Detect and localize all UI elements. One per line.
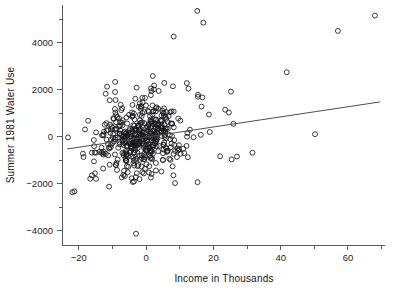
y-axis-title: Summer 1981 Water Use [5,66,16,183]
x-tick-label: 0 [143,252,148,263]
y-tick-label: 2000 [32,84,53,95]
y-tick-label: 4000 [32,37,53,48]
x-tick-label: 20 [208,252,219,263]
plot-canvas: −4000−2000020004000 −200204060 Income in… [0,0,395,288]
x-tick-label: −20 [71,252,87,263]
scatter-plot-figure: −4000−2000020004000 −200204060 Income in… [0,0,395,288]
y-tick-label: −4000 [26,225,53,236]
x-axis-title: Income in Thousands [174,273,273,284]
x-tick-label: 40 [275,252,286,263]
y-tick-label: 0 [48,131,53,142]
x-tick-label: 60 [343,252,354,263]
y-tick-label: −2000 [26,178,53,189]
